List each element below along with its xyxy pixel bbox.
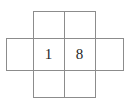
cell-top-right [65, 12, 95, 38]
cell-bottom-right [65, 71, 95, 97]
cell-bottom-left [34, 71, 64, 97]
cell-label-right-digit: 8 [64, 38, 95, 70]
grid-line-right-outer-edge [123, 38, 124, 71]
cell-middle-far-left [7, 39, 33, 70]
cell-top-left [34, 12, 64, 38]
cell-label-left-digit: 1 [33, 38, 64, 70]
cell-middle-far-right [96, 39, 123, 70]
cube-net-figure: 1 8 [0, 0, 131, 108]
